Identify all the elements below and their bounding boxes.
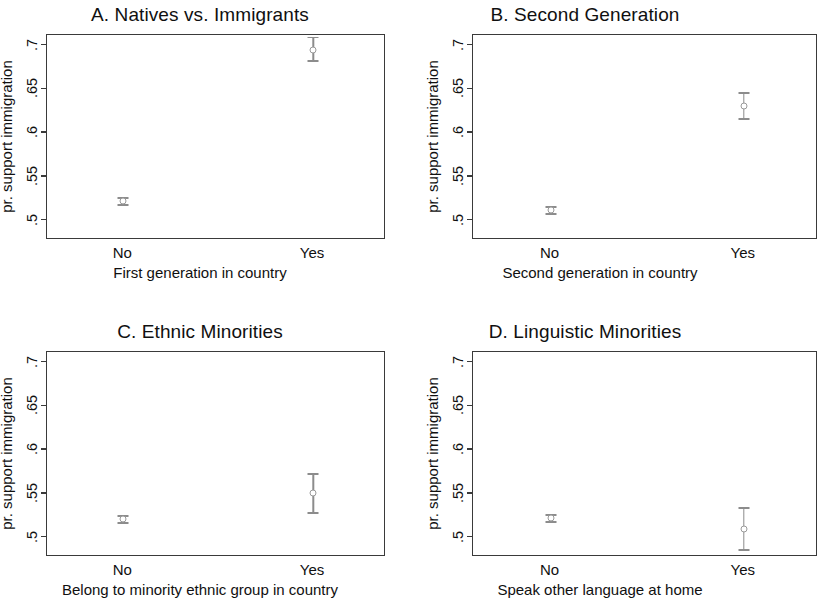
y-tick-mark [41,44,47,45]
x-axis-label: First generation in country [0,264,400,281]
y-tick-label: .7 [449,345,467,379]
data-point [547,207,554,214]
error-bar-cap-upper [308,37,319,39]
plot-area [472,351,817,556]
panel-title: A. Natives vs. Immigrants [0,4,400,26]
plot-inner [47,352,384,555]
y-tick-label: .55 [23,476,41,510]
y-tick-label: .7 [449,28,467,62]
y-tick-mark [41,175,47,176]
y-axis-label: pr. support immigration [424,34,441,239]
y-tick-label: .6 [23,115,41,149]
y-tick-mark [467,131,473,132]
data-point [120,516,127,523]
panel-title: B. Second Generation [405,4,765,26]
y-tick-mark [41,405,47,406]
x-axis-label: Speak other language at home [405,581,795,598]
x-tick-label: Yes [731,244,755,261]
y-tick-mark [467,88,473,89]
plot-area [472,34,817,239]
y-tick-mark [41,492,47,493]
x-axis-label: Belong to minority ethnic group in count… [0,581,400,598]
x-tick-label: Yes [731,561,755,578]
data-point [310,46,317,53]
y-tick-mark [41,361,47,362]
error-bar-cap-lower [738,118,749,120]
y-tick-label: .7 [23,28,41,62]
plot-inner [473,35,816,238]
y-tick-label: .6 [449,115,467,149]
x-tick-label: No [540,561,559,578]
y-tick-mark [467,448,473,449]
data-point [310,490,317,497]
y-tick-mark [467,536,473,537]
y-axis-label: pr. support immigration [0,34,15,239]
y-tick-label: .7 [23,345,41,379]
panel-title: C. Ethnic Minorities [0,321,400,343]
x-tick-label: Yes [300,561,324,578]
data-point [740,525,747,532]
error-bar-cap-upper [738,507,749,509]
y-tick-mark [41,131,47,132]
data-point [740,102,747,109]
y-tick-label: .5 [23,520,41,554]
error-bar-cap-lower [308,512,319,514]
y-tick-label: .65 [23,71,41,105]
y-tick-label: .55 [449,159,467,193]
y-tick-label: .55 [449,476,467,510]
error-bar-cap-upper [308,473,319,475]
y-tick-mark [467,44,473,45]
y-tick-label: .65 [449,388,467,422]
panel-d: D. Linguistic Minorities.5.55.6.65.7pr. … [405,300,805,594]
y-tick-mark [41,219,47,220]
y-tick-label: .5 [449,520,467,554]
data-point [120,198,127,205]
y-tick-label: .5 [449,203,467,237]
y-tick-label: .6 [449,432,467,466]
y-tick-mark [467,175,473,176]
y-tick-mark [41,88,47,89]
y-axis-label: pr. support immigration [0,351,15,556]
y-tick-mark [467,405,473,406]
plot-area [46,34,385,239]
plot-area [46,351,385,556]
panel-c: C. Ethnic Minorities.5.55.6.65.7pr. supp… [0,300,400,594]
x-tick-label: Yes [300,244,324,261]
panel-title: D. Linguistic Minorities [405,321,765,343]
error-bar-cap-lower [308,60,319,62]
plot-inner [47,35,384,238]
x-tick-label: No [113,244,132,261]
panel-b: B. Second Generation.5.55.6.65.7pr. supp… [405,0,805,297]
y-tick-mark [467,492,473,493]
x-tick-label: No [540,244,559,261]
error-bar-cap-lower [738,549,749,551]
error-bar-cap-upper [738,92,749,94]
y-tick-mark [467,219,473,220]
data-point [547,515,554,522]
y-tick-label: .55 [23,159,41,193]
y-tick-label: .5 [23,203,41,237]
y-tick-label: .65 [23,388,41,422]
y-tick-mark [41,536,47,537]
y-axis-label: pr. support immigration [424,351,441,556]
y-tick-label: .65 [449,71,467,105]
y-tick-mark [467,361,473,362]
plot-inner [473,352,816,555]
x-axis-label: Second generation in country [405,264,795,281]
y-tick-label: .6 [23,432,41,466]
y-tick-mark [41,448,47,449]
panel-a: A. Natives vs. Immigrants.5.55.6.65.7pr.… [0,0,400,297]
x-tick-label: No [113,561,132,578]
